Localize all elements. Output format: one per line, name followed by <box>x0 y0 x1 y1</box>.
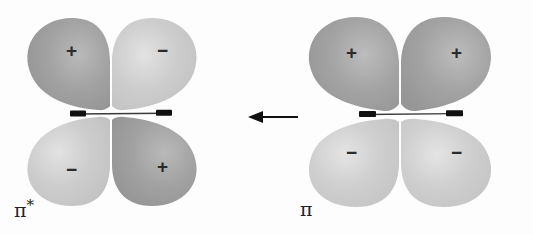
orbital-label-pi-star-superscript: * <box>27 196 35 214</box>
orbital-pi-star: + − − + π* <box>14 0 229 235</box>
nucleus-marker-left <box>70 111 86 117</box>
sign-pi-star-upper-left: + <box>66 41 77 60</box>
bond-axis-line <box>366 114 456 115</box>
pi-lobes-svg <box>296 0 516 235</box>
pi-star-bond-axis <box>70 110 172 117</box>
nucleus-marker-left <box>359 111 376 117</box>
pi-star-lobes-svg <box>14 0 229 235</box>
lobe-pi-star-lower-right <box>112 117 197 206</box>
transition-arrow <box>248 107 298 127</box>
sign-pi-upper-right: + <box>451 43 462 62</box>
sign-pi-star-upper-right: − <box>157 41 168 60</box>
orbital-label-pi-star-base: π <box>14 199 27 221</box>
sign-pi-star-lower-left: − <box>66 160 77 179</box>
nucleus-marker-right <box>156 110 172 116</box>
orbital-label-pi: π <box>300 200 313 219</box>
orbital-pi: + + − − π <box>296 0 516 235</box>
pi-bond-axis <box>359 110 463 117</box>
orbital-label-pi-base: π <box>300 198 313 220</box>
sign-pi-lower-right: − <box>451 143 462 162</box>
lobe-pi-star-upper-right <box>112 18 197 110</box>
bond-axis-line <box>76 113 166 114</box>
lobe-pi-upper-left <box>309 17 399 111</box>
lobe-pi-star-upper-left <box>27 18 110 110</box>
sign-pi-upper-left: + <box>346 43 357 62</box>
sign-pi-star-lower-right: + <box>157 157 168 176</box>
lobe-pi-lower-right <box>401 119 491 207</box>
nucleus-marker-right <box>446 110 463 116</box>
sign-pi-lower-left: − <box>346 143 357 162</box>
molecular-orbital-figure: + − − + π* <box>0 0 533 235</box>
arrow-head-icon <box>248 111 263 123</box>
orbital-label-pi-star: π* <box>14 198 34 220</box>
lobe-pi-upper-right <box>401 17 491 111</box>
